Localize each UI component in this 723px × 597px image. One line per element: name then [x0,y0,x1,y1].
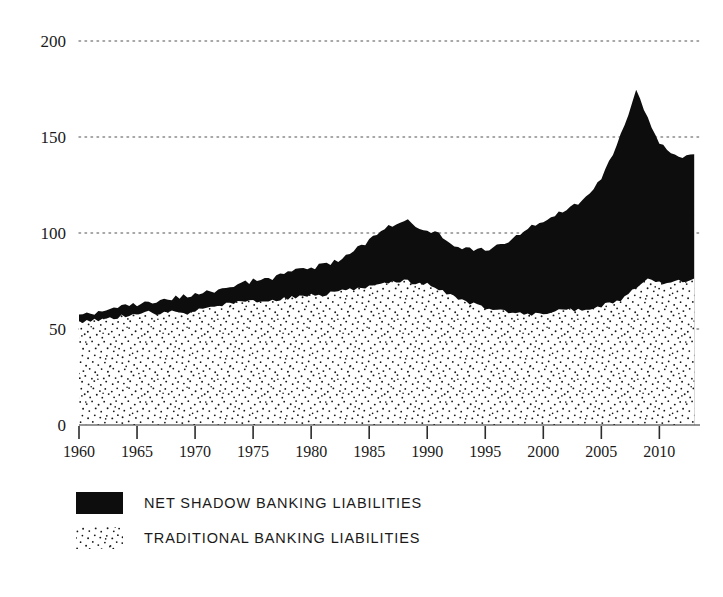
legend-swatch-traditional-banking-liabilities [76,527,123,549]
x-tick-label-1980: 1980 [295,443,327,460]
legend-label-net-shadow-banking-liabilities: NET SHADOW BANKING LIABILITIES [144,495,422,511]
legend-label-traditional-banking-liabilities: TRADITIONAL BANKING LIABILITIES [144,530,420,546]
x-tick-label-2005: 2005 [585,443,617,460]
x-tick-label-1975: 1975 [237,443,269,460]
x-axis-tick-labels: 1960196519701975198019851990199520002005… [63,443,675,460]
stacked-area-chart: 1960196519701975198019851990199520002005… [0,0,723,597]
legend-swatch-net-shadow-banking-liabilities [76,492,123,514]
plot-areas [79,90,694,425]
chart-legend: NET SHADOW BANKING LIABILITIES TRADITION… [76,492,422,549]
x-tick-label-2000: 2000 [527,443,559,460]
x-tick-label-1990: 1990 [411,443,443,460]
x-tick-label-2010: 2010 [643,443,675,460]
x-tick-label-1965: 1965 [121,443,153,460]
x-tick-label-1995: 1995 [469,443,501,460]
x-tick-label-1970: 1970 [179,443,211,460]
x-axis-ticks [79,426,659,439]
y-tick-label-150: 150 [41,128,67,147]
x-tick-label-1960: 1960 [63,443,95,460]
y-tick-label-0: 0 [58,416,67,435]
chart-container: 1960196519701975198019851990199520002005… [0,0,723,597]
y-tick-label-100: 100 [41,224,67,243]
y-axis-tick-labels: 050100150200 [41,32,67,435]
x-tick-label-1985: 1985 [353,443,385,460]
y-tick-label-200: 200 [41,32,67,51]
y-tick-label-50: 50 [49,320,66,339]
